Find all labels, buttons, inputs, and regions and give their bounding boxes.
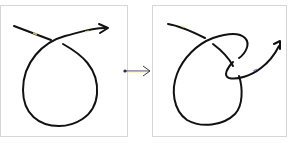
curve-before-drawing (1, 6, 129, 138)
strand-loop (23, 28, 105, 126)
curve-after-drawing (153, 6, 288, 138)
strand-descending (213, 44, 233, 66)
strand-incoming (168, 24, 205, 38)
strand-incoming (14, 26, 51, 40)
panel-before (0, 5, 128, 137)
arrow-right-icon (143, 66, 150, 76)
panel-after (152, 5, 287, 137)
strand-twist (226, 46, 279, 79)
strand-big-loop (174, 34, 248, 125)
